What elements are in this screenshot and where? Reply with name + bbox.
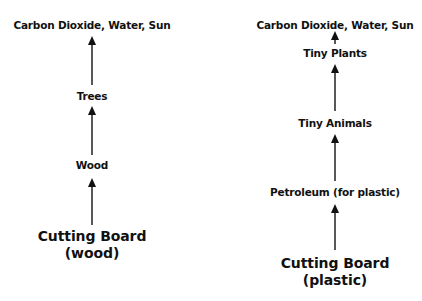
- left-node-cutting-board-material: (wood): [65, 245, 119, 262]
- right-node-petroleum: Petroleum (for plastic): [270, 186, 400, 198]
- right-node-cutting-board-title: Cutting Board: [281, 255, 390, 272]
- right-node-co2-water-sun: Carbon Dioxide, Water, Sun: [256, 19, 413, 31]
- left-node-co2-water-sun: Carbon Dioxide, Water, Sun: [13, 19, 170, 31]
- left-node-trees: Trees: [77, 90, 108, 102]
- left-arrow-board-to-wood: [88, 178, 96, 225]
- left-node-cutting-board-title: Cutting Board: [38, 228, 147, 245]
- right-arrow-petroleum-to-animals: [331, 134, 339, 181]
- left-arrow-wood-to-trees: [88, 106, 96, 155]
- right-arrow-animals-to-plants: [331, 64, 339, 111]
- right-arrow-board-to-petroleum: [331, 204, 339, 250]
- right-arrow-plants-to-co2: [331, 31, 339, 44]
- right-node-cutting-board-material: (plastic): [303, 272, 367, 289]
- right-node-tiny-plants: Tiny Plants: [303, 47, 367, 59]
- left-node-wood: Wood: [76, 159, 108, 171]
- left-arrow-trees-to-co2: [88, 36, 96, 85]
- right-node-tiny-animals: Tiny Animals: [298, 117, 371, 129]
